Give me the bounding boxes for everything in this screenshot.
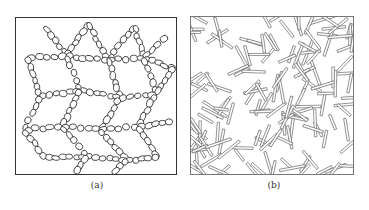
- bead: [115, 126, 122, 132]
- bead: [130, 55, 138, 62]
- bead: [99, 91, 107, 97]
- bead: [43, 54, 51, 61]
- rod: [328, 114, 336, 130]
- bead: [144, 155, 152, 161]
- rod: [344, 118, 350, 141]
- bead: [69, 124, 77, 130]
- rod: [341, 96, 353, 100]
- rod: [247, 39, 262, 46]
- bead: [45, 124, 54, 130]
- bead-network-illustration: [16, 18, 176, 174]
- bead: [45, 91, 54, 100]
- bead: [107, 125, 115, 131]
- bead: [152, 154, 159, 161]
- rod: [334, 70, 337, 97]
- caption-a: (a): [82, 180, 112, 190]
- rod: [340, 137, 353, 154]
- rod-particles-illustration: [191, 17, 353, 174]
- bead: [110, 71, 116, 80]
- rod: [296, 88, 306, 106]
- rod: [261, 17, 271, 28]
- bead: [93, 56, 100, 62]
- bead: [134, 92, 142, 99]
- rod: [337, 55, 353, 72]
- rod: [334, 102, 353, 107]
- rod: [314, 109, 317, 137]
- bead: [114, 55, 122, 61]
- rod: [216, 122, 220, 144]
- bead: [31, 124, 40, 131]
- bead: [70, 69, 77, 77]
- rod: [249, 53, 270, 55]
- bead: [24, 116, 33, 125]
- rod: [242, 70, 265, 73]
- rod: [227, 103, 235, 125]
- rod: [320, 92, 326, 116]
- bead: [149, 78, 156, 87]
- bead: [122, 56, 130, 64]
- rod: [191, 17, 208, 24]
- bead: [122, 123, 130, 131]
- rod: [303, 124, 324, 133]
- rod: [310, 59, 322, 86]
- bead: [51, 54, 59, 60]
- rod: [279, 20, 294, 38]
- figure-panel-b: [190, 16, 354, 175]
- bead: [165, 118, 173, 125]
- bead: [73, 77, 80, 85]
- caption-b: (b): [259, 180, 289, 190]
- rod: [317, 92, 333, 95]
- bead: [159, 62, 169, 70]
- bead: [125, 93, 134, 100]
- bead: [99, 155, 106, 161]
- bead: [112, 156, 119, 161]
- figure-panel-a: [15, 17, 177, 175]
- rod: [191, 31, 201, 33]
- bead: [66, 61, 74, 69]
- rod: [278, 54, 296, 63]
- bead: [77, 125, 84, 132]
- bead: [66, 154, 73, 159]
- rod: [298, 17, 301, 30]
- bead: [159, 120, 166, 126]
- rod: [347, 73, 353, 93]
- rod: [234, 149, 245, 162]
